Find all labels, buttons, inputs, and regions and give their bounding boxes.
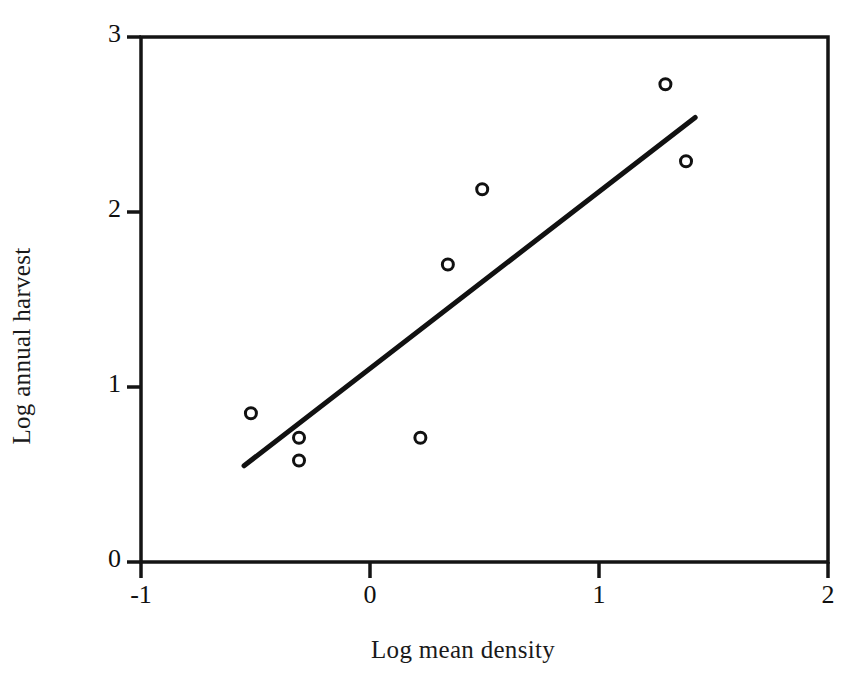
x-axis-title: Log mean density: [0, 636, 866, 664]
x-axis-tick-label: -1: [120, 580, 162, 610]
y-axis-tick-label: 1: [79, 369, 121, 399]
data-point-marker: [442, 259, 453, 270]
data-point-marker: [245, 408, 256, 419]
y-axis-title-text: Log annual harvest: [8, 247, 36, 444]
data-point-marker: [415, 432, 426, 443]
data-point-marker: [294, 455, 305, 466]
x-axis-tick-label: 0: [349, 580, 391, 610]
data-point-marker: [477, 184, 488, 195]
y-axis-title: Log annual harvest: [0, 0, 44, 691]
x-axis-tick-label: 2: [807, 580, 849, 610]
plot-frame-outline: [141, 37, 828, 562]
data-point-marker: [660, 79, 671, 90]
x-axis-tick-label: 1: [578, 580, 620, 610]
data-points: [245, 79, 691, 466]
plot-frame: [141, 37, 828, 562]
y-axis-tick-label: 3: [79, 19, 121, 49]
x-axis-title-text: Log mean density: [371, 636, 555, 664]
data-point-marker: [294, 432, 305, 443]
x-axis-ticks: [141, 562, 828, 578]
y-axis-ticks: [127, 37, 141, 562]
data-point-marker: [681, 156, 692, 167]
figure-panel: Log annual harvest Log mean density 0123…: [0, 0, 866, 691]
regression-line-segment: [244, 118, 695, 466]
y-axis-tick-label: 2: [79, 194, 121, 224]
y-axis-tick-label: 0: [79, 544, 121, 574]
regression-line: [244, 118, 695, 466]
